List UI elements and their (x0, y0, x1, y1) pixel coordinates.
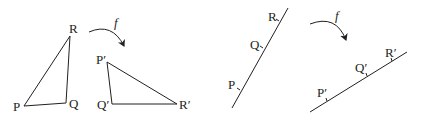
curved-arrow-icon (310, 21, 346, 40)
line-pqr-shape (232, 8, 288, 108)
point-label-r-prime: R′ (385, 45, 397, 60)
point-label-q-prime: Q′ (355, 60, 367, 75)
vertex-label-q: Q (69, 96, 79, 111)
triangle-image-shape (107, 62, 177, 104)
triangle-pqr: P Q R (13, 21, 79, 114)
line-pqr-image: P′ Q′ R′ (310, 45, 407, 112)
vertex-label-r-prime: R′ (179, 97, 191, 112)
point-label-p: P (228, 77, 235, 92)
point-label-q: Q (250, 37, 260, 52)
vertex-label-p: P (13, 99, 20, 114)
vertex-label-p-prime: P′ (96, 52, 106, 67)
triangle-pqr-image: P′ Q′ R′ (96, 52, 191, 112)
triangle-pqr-shape (24, 36, 70, 106)
mapping-arrow-right: f (310, 8, 346, 40)
mapping-diagram: P Q R f P′ Q′ R′ P Q R f P′ Q′ R′ (0, 0, 421, 125)
point-label-r: R (268, 9, 277, 24)
vertex-label-r: R (69, 21, 78, 36)
tick-p (237, 88, 240, 90)
map-label-f: f (114, 15, 120, 30)
map-label-f: f (335, 8, 341, 23)
line-pqr: P Q R (228, 8, 288, 108)
tick-q (260, 46, 263, 48)
curved-arrow-icon (89, 29, 124, 46)
vertex-label-q-prime: Q′ (97, 97, 109, 112)
point-label-p-prime: P′ (317, 85, 327, 100)
mapping-arrow-left: f (89, 15, 124, 46)
